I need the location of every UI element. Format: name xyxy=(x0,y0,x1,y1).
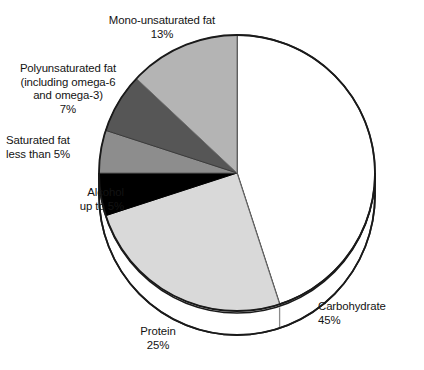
slice-label-line: (including omega-6 xyxy=(4,76,132,90)
pie-chart: Mono-unsaturated fat 13% Polyunsaturated… xyxy=(0,0,424,370)
slice-label-protein: Protein 25% xyxy=(110,325,206,352)
slice-value-line: 45% xyxy=(318,314,422,328)
slice-value-line: up to 5% xyxy=(6,200,124,214)
slice-label-mono-unsaturated-fat: Mono-unsaturated fat 13% xyxy=(82,14,242,41)
slice-value-line: 7% xyxy=(4,103,132,117)
slice-label-line: Protein xyxy=(110,325,206,339)
slice-label-carbohydrate: Carbohydrate 45% xyxy=(318,300,422,327)
slice-label-saturated-fat: Saturated fat less than 5% xyxy=(6,134,132,161)
slice-value-line: 13% xyxy=(82,28,242,42)
pie-slices xyxy=(99,35,375,311)
slice-value-line: less than 5% xyxy=(6,148,132,162)
slice-value-line: 25% xyxy=(110,339,206,353)
slice-label-polyunsaturated-fat: Polyunsaturated fat (including omega-6 a… xyxy=(4,62,132,116)
slice-label-alcohol: Alcohol up to 5% xyxy=(6,186,124,213)
slice-label-line: Polyunsaturated fat xyxy=(4,62,132,76)
slice-label-line: and omega-3) xyxy=(4,89,132,103)
slice-label-line: Carbohydrate xyxy=(318,300,422,314)
slice-label-line: Alcohol xyxy=(6,186,124,200)
slice-label-line: Saturated fat xyxy=(6,134,132,148)
slice-label-line: Mono-unsaturated fat xyxy=(82,14,242,28)
